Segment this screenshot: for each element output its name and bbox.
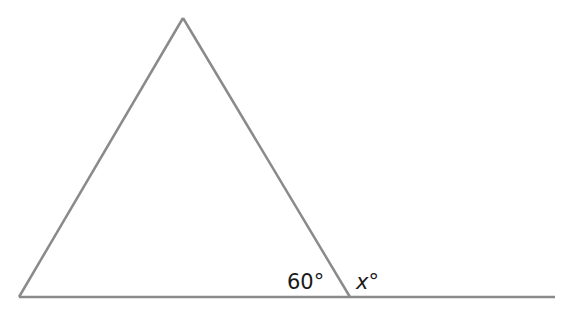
- exterior-angle-label: x°: [355, 270, 379, 294]
- interior-angle-label: 60°: [287, 270, 324, 294]
- triangle-left-side: [19, 18, 183, 297]
- exterior-angle-degree: °: [368, 270, 379, 294]
- triangle-right-side: [183, 18, 350, 297]
- triangle-diagram: 60° x°: [0, 0, 565, 322]
- exterior-angle-variable: x: [355, 270, 369, 294]
